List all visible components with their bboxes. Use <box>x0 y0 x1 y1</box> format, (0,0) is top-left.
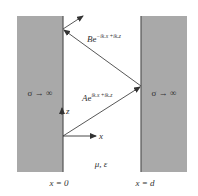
incident-wave-label: Aeikₓx +ikᵤz <box>81 92 113 103</box>
incident-wave-exponent: ikₓx +ikᵤz <box>92 92 114 98</box>
x-axis-label: x <box>98 131 103 141</box>
boundary-label-x0: x = 0 <box>48 178 69 188</box>
outgoing-ray-arrow <box>63 16 83 29</box>
reflected-wave-exponent: −ikₓx +ikᵤz <box>97 33 122 39</box>
z-axis-label: z <box>65 106 70 116</box>
medium-label: μ, ε <box>94 159 108 169</box>
right-sigma-label: σ → ∞ <box>152 88 177 98</box>
reflected-wave-label: Be−ikₓx +ikᵤz <box>87 33 122 44</box>
left-sigma-label: σ → ∞ <box>28 88 53 98</box>
waveguide-diagram: σ → ∞ σ → ∞ x z Be−ikₓx +ikᵤz Aeikₓx +ik… <box>0 0 198 196</box>
boundary-label-xd: x = d <box>134 178 155 188</box>
